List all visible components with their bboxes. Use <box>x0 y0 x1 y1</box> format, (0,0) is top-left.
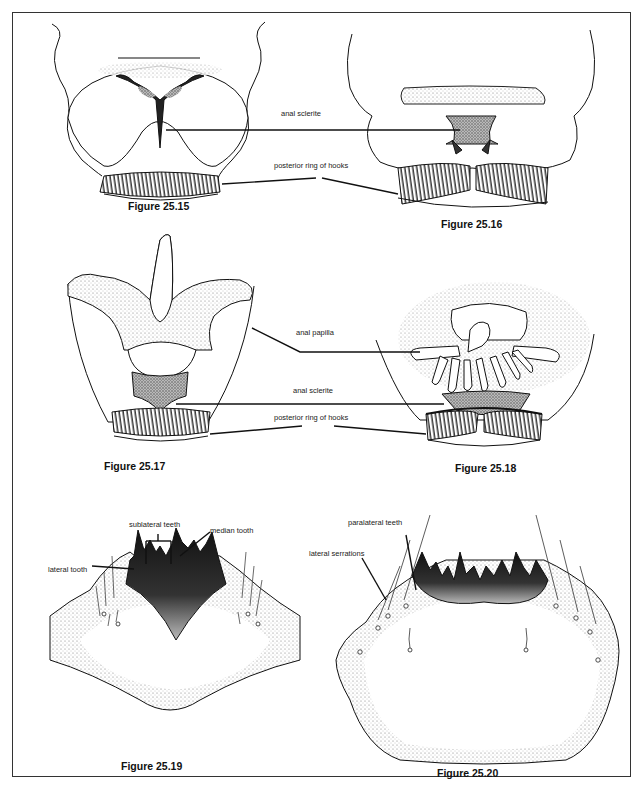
label-lateral-serrations: lateral serrations <box>309 549 364 558</box>
figure-25-17-drawing <box>68 235 254 441</box>
caption-figure-25-17: Figure 25.17 <box>104 460 165 472</box>
caption-figure-25-16: Figure 25.16 <box>441 218 502 230</box>
label-anal-sclerite-row2: anal sclerite <box>293 386 333 395</box>
figure-25-18-drawing <box>376 282 594 446</box>
figure-25-20-drawing <box>336 515 619 764</box>
label-anal-papilla-row2: anal papilla <box>296 328 334 337</box>
caption-figure-25-19: Figure 25.19 <box>121 760 182 772</box>
caption-figure-25-20: Figure 25.20 <box>437 767 498 779</box>
label-median-tooth: median tooth <box>210 526 253 535</box>
caption-figure-25-18: Figure 25.18 <box>455 462 516 474</box>
figure-25-16-drawing <box>347 30 594 207</box>
label-paralateral-teeth: paralateral teeth <box>348 518 402 527</box>
plate-illustrations <box>0 0 643 793</box>
label-sublateral-teeth: sublateral teeth <box>129 520 180 529</box>
label-lateral-tooth: lateral tooth <box>48 565 87 574</box>
label-posterior-ring-row2: posterior ring of hooks <box>274 413 348 422</box>
label-anal-sclerite-row1: anal sclerite <box>281 109 321 118</box>
label-posterior-ring-row1: posterior ring of hooks <box>274 161 348 170</box>
figure-25-19-drawing <box>50 528 300 710</box>
caption-figure-25-15: Figure 25.15 <box>128 200 189 212</box>
figure-25-15-drawing <box>52 22 265 200</box>
